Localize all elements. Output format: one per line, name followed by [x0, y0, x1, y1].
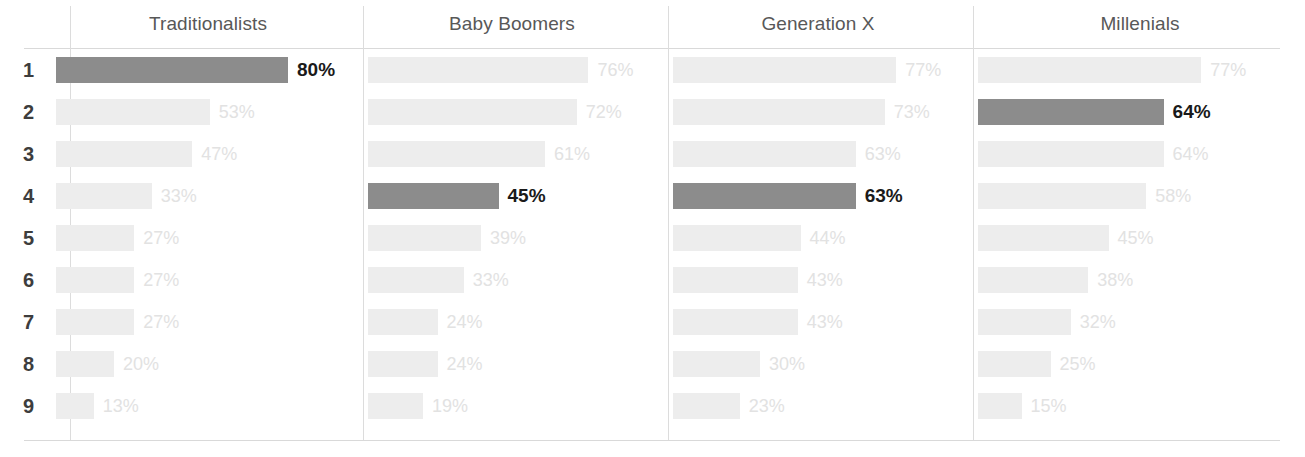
- bar-value-label: 73%: [885, 99, 930, 125]
- bar-muted[interactable]: [56, 267, 134, 293]
- bar-value-label: 23%: [740, 393, 785, 419]
- row-index-label: 2: [0, 91, 48, 133]
- bar-row: 30%: [673, 343, 963, 385]
- panel-traditionalists: 80%53%47%33%27%27%27%20%13%: [56, 49, 346, 427]
- bar-muted[interactable]: [368, 309, 438, 335]
- bar-value-label: 27%: [134, 225, 179, 251]
- bar-muted[interactable]: [368, 393, 423, 419]
- bar-row: 77%: [673, 49, 963, 91]
- row-index-label: 9: [0, 385, 48, 427]
- bar-row: 20%: [56, 343, 346, 385]
- small-multiples-bar-chart: TraditionalistsBaby BoomersGeneration XM…: [0, 0, 1305, 457]
- bar-highlighted[interactable]: [673, 183, 856, 209]
- row-index-label: 1: [0, 49, 48, 91]
- bar-value-label: 25%: [1051, 351, 1096, 377]
- bar-muted[interactable]: [978, 267, 1088, 293]
- bar-value-label: 27%: [134, 267, 179, 293]
- bar-muted[interactable]: [978, 141, 1164, 167]
- bar-value-label: 30%: [760, 351, 805, 377]
- bar-row: 47%: [56, 133, 346, 175]
- bar-value-label: 45%: [1109, 225, 1154, 251]
- bar-value-label: 38%: [1088, 267, 1133, 293]
- bar-muted[interactable]: [673, 57, 896, 83]
- bar-muted[interactable]: [56, 183, 152, 209]
- bar-muted[interactable]: [673, 309, 798, 335]
- bar-muted[interactable]: [368, 141, 545, 167]
- bar-value-label: 58%: [1146, 183, 1191, 209]
- bar-value-label: 47%: [192, 141, 237, 167]
- bar-row: 32%: [978, 301, 1268, 343]
- bar-row: 63%: [673, 175, 963, 217]
- bar-muted[interactable]: [56, 393, 94, 419]
- column-header-row: TraditionalistsBaby BoomersGeneration XM…: [0, 0, 1305, 48]
- bar-value-label: 24%: [438, 351, 483, 377]
- bar-value-label: 33%: [464, 267, 509, 293]
- bar-value-label: 64%: [1164, 141, 1209, 167]
- bar-value-label: 63%: [856, 141, 901, 167]
- bar-muted[interactable]: [978, 393, 1022, 419]
- bar-muted[interactable]: [673, 99, 885, 125]
- bar-row: 53%: [56, 91, 346, 133]
- bar-row: 45%: [978, 217, 1268, 259]
- bar-value-label: 20%: [114, 351, 159, 377]
- bar-muted[interactable]: [978, 309, 1071, 335]
- bar-value-label: 63%: [856, 183, 903, 209]
- bar-row: 27%: [56, 259, 346, 301]
- bar-muted[interactable]: [368, 57, 588, 83]
- bar-highlighted[interactable]: [978, 99, 1164, 125]
- bar-row: 80%: [56, 49, 346, 91]
- panel-generation-x: 77%73%63%63%44%43%43%30%23%: [673, 49, 963, 427]
- row-index-label: 8: [0, 343, 48, 385]
- bar-highlighted[interactable]: [368, 183, 499, 209]
- bar-muted[interactable]: [368, 99, 577, 125]
- bar-row: 76%: [368, 49, 666, 91]
- bar-value-label: 77%: [1201, 57, 1246, 83]
- bar-muted[interactable]: [56, 351, 114, 377]
- bar-muted[interactable]: [56, 309, 134, 335]
- bar-muted[interactable]: [673, 393, 740, 419]
- bar-value-label: 64%: [1164, 99, 1211, 125]
- bar-row: 33%: [56, 175, 346, 217]
- bar-value-label: 53%: [210, 99, 255, 125]
- bar-value-label: 33%: [152, 183, 197, 209]
- bar-muted[interactable]: [368, 351, 438, 377]
- bar-muted[interactable]: [673, 351, 760, 377]
- bar-muted[interactable]: [56, 141, 192, 167]
- bar-muted[interactable]: [673, 225, 801, 251]
- row-index-label: 3: [0, 133, 48, 175]
- bar-value-label: 15%: [1022, 393, 1067, 419]
- bar-row: 45%: [368, 175, 666, 217]
- bar-row: 25%: [978, 343, 1268, 385]
- bar-row: 43%: [673, 301, 963, 343]
- panel-baby-boomers: 76%72%61%45%39%33%24%24%19%: [368, 49, 666, 427]
- bar-muted[interactable]: [56, 225, 134, 251]
- bar-muted[interactable]: [673, 141, 856, 167]
- bar-row: 33%: [368, 259, 666, 301]
- bar-row: 64%: [978, 133, 1268, 175]
- bar-row: 77%: [978, 49, 1268, 91]
- bar-row: 58%: [978, 175, 1268, 217]
- bottom-divider-rule: [24, 440, 1280, 441]
- bar-row: 61%: [368, 133, 666, 175]
- bar-muted[interactable]: [368, 225, 481, 251]
- row-index-column: 123456789: [0, 49, 48, 427]
- bar-value-label: 27%: [134, 309, 179, 335]
- bar-value-label: 43%: [798, 267, 843, 293]
- bar-muted[interactable]: [978, 225, 1109, 251]
- bar-muted[interactable]: [56, 99, 210, 125]
- bar-value-label: 45%: [499, 183, 546, 209]
- row-index-label: 4: [0, 175, 48, 217]
- row-index-label: 5: [0, 217, 48, 259]
- bar-highlighted[interactable]: [56, 57, 288, 83]
- bar-muted[interactable]: [978, 351, 1051, 377]
- bar-muted[interactable]: [368, 267, 464, 293]
- bar-value-label: 32%: [1071, 309, 1116, 335]
- bar-row: 63%: [673, 133, 963, 175]
- bar-muted[interactable]: [978, 183, 1146, 209]
- bar-muted[interactable]: [978, 57, 1201, 83]
- row-index-label: 7: [0, 301, 48, 343]
- bar-value-label: 43%: [798, 309, 843, 335]
- column-header-generation-x: Generation X: [658, 0, 978, 48]
- bar-muted[interactable]: [673, 267, 798, 293]
- bar-value-label: 77%: [896, 57, 941, 83]
